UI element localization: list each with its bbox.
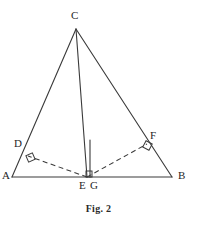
solid-line-group bbox=[12, 29, 172, 177]
vertex-label-d: D bbox=[14, 138, 22, 149]
vertex-label-c: C bbox=[71, 10, 78, 21]
side-AC bbox=[12, 29, 76, 177]
vertex-label-b: B bbox=[178, 170, 185, 181]
right-angle-at-F bbox=[143, 141, 152, 150]
vertex-label-f: F bbox=[150, 130, 156, 141]
cevian-CE bbox=[76, 29, 87, 177]
dashed-line-group bbox=[28, 144, 147, 177]
right-angle-at-D bbox=[26, 153, 35, 162]
figure-caption: Fig. 2 bbox=[0, 203, 197, 214]
perpendicular-ED bbox=[28, 156, 87, 177]
vertex-label-e: E bbox=[79, 180, 86, 191]
vertex-label-a: A bbox=[2, 170, 10, 181]
geometry-diagram bbox=[0, 0, 197, 225]
right-angle-mark-group bbox=[26, 141, 152, 177]
geometry-figure: CDFABEG Fig. 2 bbox=[0, 0, 197, 225]
vertex-label-g: G bbox=[90, 180, 98, 191]
perpendicular-EF bbox=[87, 144, 147, 177]
